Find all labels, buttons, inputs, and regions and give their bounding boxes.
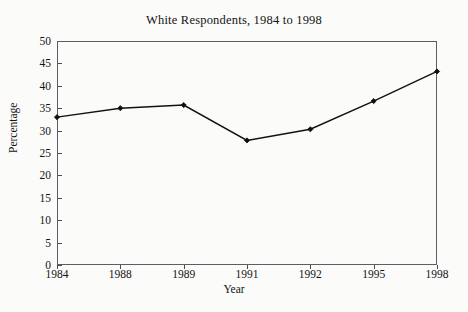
x-tick-label: 1998 (426, 268, 449, 280)
x-tick-label: 1989 (172, 268, 195, 280)
data-point-marker (244, 138, 249, 143)
data-point-marker (118, 106, 123, 111)
data-point-marker (308, 127, 313, 132)
x-tick-label: 1995 (362, 268, 385, 280)
data-point-marker (371, 98, 376, 103)
plot-area (57, 41, 437, 265)
series-line (57, 71, 437, 140)
series-markers (54, 69, 439, 143)
data-series-layer (57, 41, 437, 265)
data-point-marker (181, 102, 186, 107)
x-tick-label: 1984 (46, 268, 69, 280)
x-tick-label: 1991 (236, 268, 259, 280)
chart-figure: White Respondents, 1984 to 1998 Percenta… (0, 0, 468, 312)
x-tick-label: 1988 (109, 268, 132, 280)
x-tick-label: 1992 (299, 268, 322, 280)
